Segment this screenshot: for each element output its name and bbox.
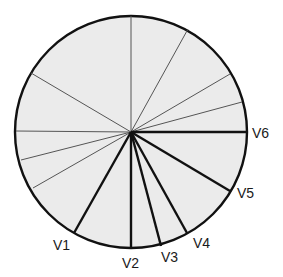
- lead-label-v1: V1: [53, 238, 70, 252]
- lead-label-v2: V2: [122, 256, 139, 270]
- lead-circle-graphic: [0, 0, 283, 277]
- lead-label-v5: V5: [237, 186, 254, 200]
- precordial-lead-diagram: V1 V2 V3 V4 V5 V6: [0, 0, 283, 277]
- lead-label-v4: V4: [193, 236, 210, 250]
- lead-label-v6: V6: [252, 126, 269, 140]
- lead-label-v3: V3: [161, 250, 178, 264]
